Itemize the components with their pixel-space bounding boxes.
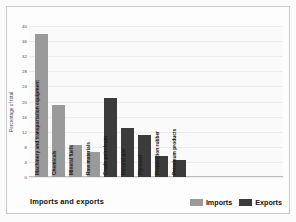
legend-swatch <box>190 199 203 206</box>
y-axis-tick-label: 28 <box>22 69 27 74</box>
bar-slot[interactable]: Petroleum products <box>173 26 186 177</box>
y-axis-tick-label: 40 <box>22 24 27 29</box>
bar-category-label: Raw materials <box>86 142 91 175</box>
bar-category-label: Plywood <box>138 155 143 175</box>
bar-slot[interactable]: Raw materials <box>87 26 100 177</box>
bar-category-label: Crude petroleum <box>103 136 108 175</box>
legend-item[interactable]: Imports <box>190 198 232 207</box>
chart-figure: Percentage of total 0481216202428323640 … <box>0 0 296 222</box>
y-axis-title-text: Percentage of total <box>9 52 14 132</box>
gridline <box>29 177 283 178</box>
bar-category-label: Mineral fuels <box>69 145 74 175</box>
bar-category-label: Machinery and transportation equipment <box>35 80 40 175</box>
legend-label: Imports <box>206 198 232 207</box>
y-axis-tick-label: 4 <box>25 159 27 164</box>
legend-item[interactable]: Exports <box>239 198 282 207</box>
y-axis-tick-label: 20 <box>22 99 27 104</box>
legend-swatch <box>239 199 252 206</box>
bar-slot[interactable]: Chemicals <box>52 26 65 177</box>
y-axis-tick-label: 8 <box>25 144 27 149</box>
bar-category-label: Preparation rubber <box>155 131 160 175</box>
legend-label: Exports <box>255 198 282 207</box>
bar-category-label: Petroleum products <box>172 129 177 175</box>
y-axis-title: Percentage of total <box>9 0 14 52</box>
y-axis-tick-label: 24 <box>22 84 27 89</box>
y-axis-tick-label: 32 <box>22 54 27 59</box>
chart-legend: ImportsExports <box>190 198 282 207</box>
y-axis-tick-label: 16 <box>22 114 27 119</box>
bar-slot[interactable]: Plywood <box>138 26 151 177</box>
y-axis-tick-label: 36 <box>22 39 27 44</box>
bar-slot[interactable]: Mineral fuels <box>69 26 82 177</box>
bar-category-label: Chemicals <box>52 151 57 175</box>
plot-area: 0481216202428323640 Machinery and transp… <box>29 26 283 177</box>
y-axis-tick-label: 0 <box>25 175 27 180</box>
bar-slot[interactable]: Machinery and transportation equipment <box>35 26 48 177</box>
bar-slot[interactable]: Natural gas <box>121 26 134 177</box>
bar-slot[interactable]: Crude petroleum <box>104 26 117 177</box>
bar-slot[interactable]: Preparation rubber <box>155 26 168 177</box>
bar-category-label: Natural gas <box>121 148 126 175</box>
y-axis-tick-label: 12 <box>22 129 27 134</box>
bar-group: Machinery and transportation equipmentCh… <box>29 26 283 177</box>
x-axis-title: Imports and exports <box>30 197 104 206</box>
